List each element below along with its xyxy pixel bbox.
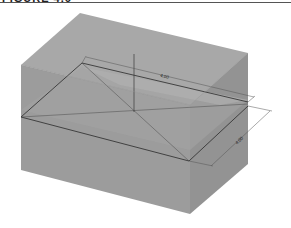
isometric-box-drawing: 4.00 4.00 [0, 0, 291, 228]
